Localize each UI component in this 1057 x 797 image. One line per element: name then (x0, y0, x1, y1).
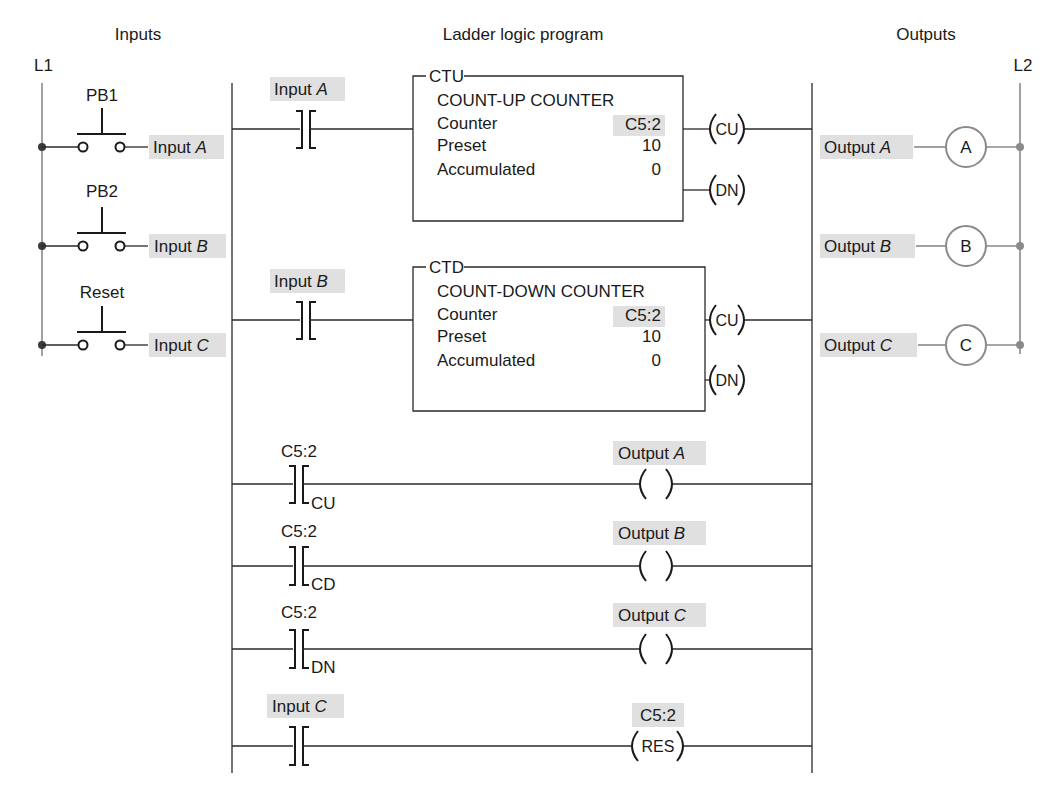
rung4-contact-tag: C5:2 (281, 522, 317, 541)
output-a-label: Output A (824, 138, 891, 157)
ctd-type: CTD (429, 258, 464, 277)
rung-ctd: Input B CTD COUNT-DOWN COUNTER Counter C… (232, 258, 812, 411)
junction-dot (1016, 143, 1024, 151)
output-device-a: Output A A (820, 127, 1024, 167)
rung-reset: Input C C5:2 RES (232, 694, 812, 765)
rung-ctd-contact-label: Input B (274, 272, 328, 291)
junction-dot (1016, 341, 1024, 349)
ctu-cu-label: CU (715, 121, 738, 138)
ctu-title: COUNT-UP COUNTER (437, 91, 614, 110)
rung-output-c: C5:2 DN Output C (232, 603, 812, 677)
output-coil-icon (640, 634, 672, 664)
pb1-label: PB1 (86, 86, 118, 105)
rung6-coil-label: RES (642, 738, 675, 755)
ctd-cu-label: CU (715, 312, 738, 329)
ctu-counter-label: Counter (437, 114, 498, 133)
ctu-accumulated-value: 0 (652, 160, 661, 179)
input-a-label: Input A (153, 138, 207, 157)
rail-l1-label: L1 (34, 56, 53, 75)
rung5-coil-label: Output C (618, 606, 687, 625)
inputs-header: Inputs (115, 25, 161, 44)
junction-dot (1016, 242, 1024, 250)
pb2-label: PB2 (86, 182, 118, 201)
output-coil-icon (640, 551, 672, 581)
input-b-label: Input B (154, 237, 208, 256)
svg-text:B: B (960, 237, 971, 256)
rung5-contact-tag: C5:2 (281, 603, 317, 622)
ctd-accumulated-label: Accumulated (437, 351, 535, 370)
rung3-contact-bit: CU (311, 494, 336, 513)
rung6-coil-tag: C5:2 (640, 706, 676, 725)
ctu-preset-value: 10 (642, 136, 661, 155)
ctd-accumulated-value: 0 (652, 351, 661, 370)
rung4-coil-label: Output B (618, 524, 685, 543)
rung5-contact-bit: DN (311, 658, 336, 677)
program-header: Ladder logic program (443, 25, 604, 44)
ctd-dn-label: DN (715, 372, 738, 389)
ctd-counter-label: Counter (437, 305, 498, 324)
ctu-dn-label: DN (715, 182, 738, 199)
ctd-title: COUNT-DOWN COUNTER (437, 282, 645, 301)
rung4-contact-bit: CD (311, 575, 336, 594)
input-c-label: Input C (154, 336, 210, 355)
input-pushbutton-pb2: PB2 Input B (38, 182, 226, 258)
cu-coil-close-icon (738, 114, 744, 144)
output-b-label: Output B (824, 237, 891, 256)
ladder-logic-diagram: Inputs Ladder logic program Outputs L1 L… (0, 0, 1057, 797)
ctu-type: CTU (429, 67, 464, 86)
ctd-counter-value: C5:2 (625, 306, 661, 325)
output-c-label: Output C (824, 336, 893, 355)
ctd-preset-value: 10 (642, 327, 661, 346)
outputs-header: Outputs (896, 25, 956, 44)
rung-output-b: C5:2 CD Output B (232, 521, 812, 594)
input-pushbutton-reset: Reset Input C (38, 283, 226, 357)
rung3-contact-tag: C5:2 (281, 442, 317, 461)
rung-ctu-contact-label: Input A (274, 80, 328, 99)
ctd-preset-label: Preset (437, 327, 486, 346)
svg-text:A: A (960, 138, 972, 157)
ctu-accumulated-label: Accumulated (437, 160, 535, 179)
rung-ctu: Input A CTU COUNT-UP COUNTER Counter C5:… (232, 67, 812, 221)
reset-label: Reset (80, 283, 125, 302)
svg-text:C: C (960, 336, 972, 355)
output-device-b: Output B B (820, 226, 1024, 266)
rung-output-a: C5:2 CU Output A (232, 441, 812, 513)
output-coil-icon (640, 469, 672, 499)
ctu-counter-value: C5:2 (625, 115, 661, 134)
rung6-contact-label: Input C (272, 697, 328, 716)
input-pushbutton-pb1: PB1 Input A (38, 86, 224, 159)
ctu-preset-label: Preset (437, 136, 486, 155)
rung3-coil-label: Output A (618, 444, 685, 463)
output-device-c: Output C C (820, 325, 1024, 365)
rail-l2-label: L2 (1014, 56, 1033, 75)
